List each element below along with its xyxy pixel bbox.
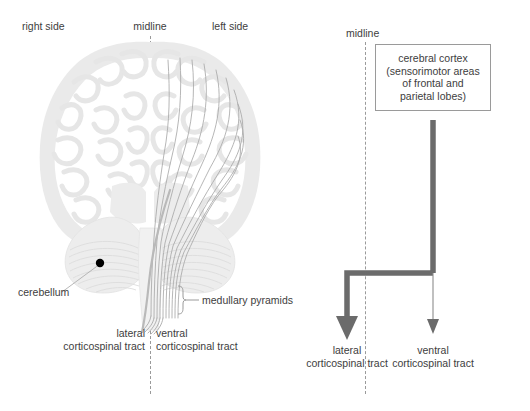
ventral-tract-arrowhead xyxy=(427,319,439,334)
anatomy-ventral-tract-line1: ventral xyxy=(156,327,188,339)
lateral-tract-arrowhead xyxy=(336,316,358,340)
anatomy-ventral-tract-line2: corticospinal tract xyxy=(156,340,238,352)
decussating-tract-path xyxy=(347,273,433,318)
corticospinal-tract-figure: right side midline left side xyxy=(0,0,530,411)
anatomy-lateral-tract-line2: corticospinal tract xyxy=(63,340,145,352)
anatomy-lateral-tract-label: lateralcorticospinal tract xyxy=(14,327,145,353)
schematic-ventral-tract-label: ventralcorticospinal tract xyxy=(357,344,509,370)
anatomy-lateral-tract-line1: lateral xyxy=(116,327,145,339)
schematic-ventral-tract-line1: ventral xyxy=(417,344,449,356)
cerebellum-marker-dot xyxy=(96,259,104,267)
brainstem xyxy=(139,228,163,330)
cerebellum-label: cerebellum xyxy=(18,286,69,299)
corticospinal-flow-schematic xyxy=(320,20,530,350)
medullary-pyramids-label: medullary pyramids xyxy=(202,294,293,307)
schematic-ventral-tract-line2: corticospinal tract xyxy=(392,357,474,369)
